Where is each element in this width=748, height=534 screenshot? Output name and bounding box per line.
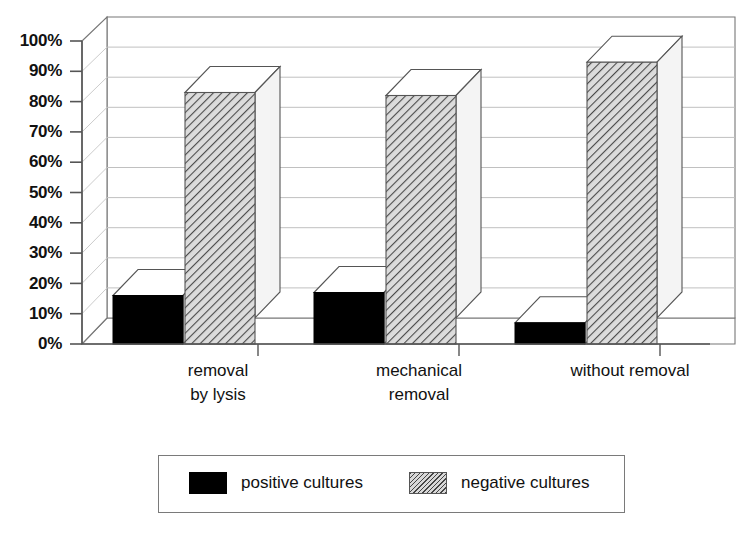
legend-item-positive[interactable]: positive cultures — [189, 472, 363, 494]
ytick-label-50: 50% — [0, 183, 62, 203]
ytick-label-90: 90% — [0, 61, 62, 81]
ytick-label-40: 40% — [0, 213, 62, 233]
category-label-1: mechanical removal — [329, 359, 509, 407]
ytick-label-0: 0% — [0, 334, 62, 354]
x-axis — [82, 344, 710, 356]
ytick-label-80: 80% — [0, 92, 62, 112]
category-label-0-line-0: removal — [128, 359, 308, 383]
legend-label-positive: positive cultures — [241, 473, 363, 493]
category-label-0: removal by lysis — [128, 359, 308, 407]
bar-negative-2[interactable] — [587, 36, 682, 344]
ytick-label-70: 70% — [0, 122, 62, 142]
bar-chart: 100% 90% 80% 70% 60% 50% 40% 30% 20% 10%… — [0, 0, 748, 534]
category-label-2-line-0: without removal — [530, 359, 730, 383]
y-axis — [70, 41, 82, 344]
bar-negative-1[interactable] — [386, 70, 481, 345]
ytick-label-60: 60% — [0, 152, 62, 172]
legend-label-negative: negative cultures — [461, 473, 590, 493]
category-label-0-line-1: by lysis — [128, 383, 308, 407]
legend: positive cultures negative cultures — [158, 455, 625, 513]
legend-swatch-positive-icon — [189, 472, 227, 494]
ytick-label-100: 100% — [0, 31, 62, 51]
ytick-label-20: 20% — [0, 274, 62, 294]
ytick-label-30: 30% — [0, 243, 62, 263]
legend-item-negative[interactable]: negative cultures — [409, 472, 590, 494]
plot-area — [0, 0, 748, 534]
category-label-1-line-1: removal — [329, 383, 509, 407]
bar-negative-0[interactable] — [185, 67, 280, 345]
category-label-1-line-0: mechanical — [329, 359, 509, 383]
legend-swatch-negative-icon — [409, 472, 447, 494]
ytick-label-10: 10% — [0, 304, 62, 324]
category-label-2: without removal — [530, 359, 730, 383]
